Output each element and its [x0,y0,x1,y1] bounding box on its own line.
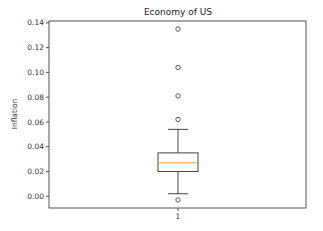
y-tick-label: 0.08 [27,93,44,102]
iqr-box [158,153,198,172]
y-tick-label: 0.12 [27,43,44,52]
y-axis-ticks: 0.000.020.040.060.080.100.120.14 [27,18,49,200]
box-series [158,27,198,202]
chart-title: Economy of US [144,7,212,17]
y-tick-label: 0.14 [27,18,44,27]
y-tick-label: 0.04 [27,142,44,151]
outlier-point [176,198,180,202]
y-tick-label: 0.00 [27,192,44,201]
y-tick-label: 0.06 [27,118,44,127]
box-plot-figure: Economy of US Inflation 0.000.020.040.06… [0,0,323,231]
outlier-point [176,117,180,121]
x-tick-label: 1 [176,212,181,221]
y-tick-label: 0.10 [27,68,44,77]
outlier-point [176,65,180,69]
outlier-point [176,94,180,98]
y-axis-label: Inflation [10,98,19,129]
y-tick-label: 0.02 [27,167,44,176]
outlier-point [176,27,180,31]
x-axis-ticks: 1 [176,208,181,221]
